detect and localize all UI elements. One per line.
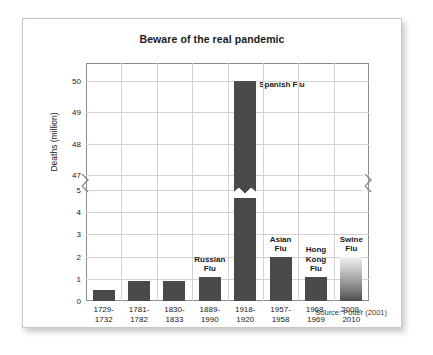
bar (93, 290, 115, 301)
gridline-vertical (334, 63, 335, 301)
bar (340, 257, 362, 301)
bar-annotation: Russian Flu (193, 255, 227, 274)
y-axis-break-mark-left (80, 174, 93, 192)
gridline-vertical (121, 63, 122, 301)
y-tick-label: 4 (77, 208, 81, 217)
bar (305, 277, 327, 301)
x-tick-label: 1889- 1990 (192, 305, 227, 326)
gridline-vertical (228, 63, 229, 301)
bar (199, 277, 221, 301)
y-tick-label: 3 (77, 230, 81, 239)
y-tick-label: 49 (72, 108, 81, 117)
y-tick-label: 0 (77, 297, 81, 306)
bar (270, 257, 292, 301)
x-tick-label: 1781- 1782 (121, 305, 156, 326)
y-tick-label: 50 (72, 77, 81, 86)
gridline-vertical (263, 63, 264, 301)
chart-card: Beware of the real pandemic Deaths (mill… (22, 18, 402, 328)
plot-area: Russian FluSpanish FluAsian FluHong Kong… (86, 63, 369, 301)
source-note: Source: Potter (2001) (315, 308, 387, 317)
y-tick-label: 2 (77, 252, 81, 261)
x-tick-label: 1830- 1833 (157, 305, 192, 326)
page-title: Beware of the real pandemic (23, 33, 401, 45)
bar (128, 281, 150, 301)
x-tick-label: 1957- 1958 (263, 305, 298, 326)
y-axis-tick-labels: 01234547484950 (23, 63, 81, 301)
x-tick-label: 1918- 1920 (228, 305, 263, 326)
y-tick-label: 1 (77, 274, 81, 283)
gridline-vertical (157, 63, 158, 301)
bar-annotation: Hong Kong Flu (299, 245, 333, 273)
bar-break-mark (234, 184, 256, 195)
bar (163, 281, 185, 301)
y-tick-label: 48 (72, 139, 81, 148)
bar-annotation: Spanish Flu (259, 80, 329, 89)
y-axis-break-mark-right (363, 174, 376, 192)
bar-annotation: Swine Flu (334, 235, 368, 254)
bar-annotation: Asian Flu (264, 235, 298, 254)
x-tick-label: 1729- 1732 (86, 305, 121, 326)
